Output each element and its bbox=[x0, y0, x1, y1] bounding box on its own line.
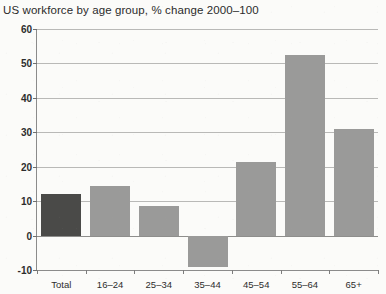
x-axis-label-16-24: 16–24 bbox=[97, 279, 123, 290]
y-tick-0 bbox=[33, 236, 37, 237]
y-tick-30 bbox=[33, 132, 37, 133]
x-tick bbox=[281, 270, 282, 274]
gridline-10 bbox=[37, 201, 378, 202]
chart-figure: US workforce by age group, % change 2000… bbox=[0, 0, 386, 294]
x-tick bbox=[37, 270, 38, 274]
y-axis-label: 40 bbox=[21, 92, 32, 103]
plot-area: 6050403020100-10 Total16–2425–3435–4445–… bbox=[36, 29, 378, 271]
gridline-50 bbox=[37, 63, 378, 64]
bar-total bbox=[41, 194, 81, 235]
y-tick-20 bbox=[33, 167, 37, 168]
x-tick bbox=[86, 270, 87, 274]
y-axis-label: 10 bbox=[21, 196, 32, 207]
y-axis-label: 30 bbox=[21, 127, 32, 138]
bar-25-34 bbox=[139, 206, 179, 235]
bar-35-44 bbox=[188, 236, 228, 267]
bar-55-64 bbox=[285, 55, 325, 236]
x-tick bbox=[183, 270, 184, 274]
y-tick-50 bbox=[33, 63, 37, 64]
x-tick bbox=[329, 270, 330, 274]
y-axis-label: 50 bbox=[21, 58, 32, 69]
gridline-20 bbox=[37, 167, 378, 168]
y-axis-label: 20 bbox=[21, 161, 32, 172]
y-axis-label: 0 bbox=[26, 230, 32, 241]
y-tick-60 bbox=[33, 29, 37, 30]
x-axis-label-55-64: 55–64 bbox=[292, 279, 318, 290]
bar-65- bbox=[334, 129, 374, 236]
bar-45-54 bbox=[236, 162, 276, 236]
y-axis-label: -10 bbox=[18, 265, 32, 276]
x-tick bbox=[232, 270, 233, 274]
x-axis: Total16–2425–3435–4445–5455–6465+ bbox=[37, 270, 378, 275]
x-axis-label-25-34: 25–34 bbox=[146, 279, 172, 290]
gridline-30 bbox=[37, 132, 378, 133]
x-axis-label-total: Total bbox=[51, 279, 71, 290]
x-tick bbox=[378, 270, 379, 274]
y-tick-40 bbox=[33, 98, 37, 99]
x-tick bbox=[134, 270, 135, 274]
gridline-60 bbox=[37, 29, 378, 30]
x-axis-label-65-: 65+ bbox=[346, 279, 362, 290]
bar-16-24 bbox=[90, 186, 130, 236]
y-axis-label: 60 bbox=[21, 24, 32, 35]
gridline-40 bbox=[37, 98, 378, 99]
x-axis-label-45-54: 45–54 bbox=[243, 279, 269, 290]
y-tick-10 bbox=[33, 201, 37, 202]
chart-title: US workforce by age group, % change 2000… bbox=[3, 4, 259, 16]
x-axis-label-35-44: 35–44 bbox=[194, 279, 220, 290]
